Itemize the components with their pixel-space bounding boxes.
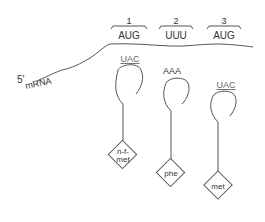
codon-position-3: 3 <box>221 16 226 26</box>
trna-2: AAA phe <box>156 66 189 187</box>
codon-1: 1 AUG <box>111 16 147 41</box>
amino-acid-1-line2: met <box>116 155 130 164</box>
codon-bracket-1 <box>111 26 147 29</box>
trna-loop-3 <box>211 91 236 122</box>
codon-position-2: 2 <box>173 16 178 26</box>
five-prime-label: 5′ <box>17 74 25 85</box>
trna-3: UAC met <box>204 80 236 199</box>
amino-acid-2: phe <box>164 169 178 178</box>
codon-bracket-3 <box>207 26 241 29</box>
mrna-strand <box>37 44 253 81</box>
codon-sequence-2: UUU <box>165 30 187 41</box>
codon-2: 2 UUU <box>159 16 193 41</box>
trna-loop-1 <box>116 65 143 104</box>
codon-position-1: 1 <box>126 16 131 26</box>
anticodon-2: AAA <box>163 66 181 76</box>
amino-acid-3: met <box>211 182 225 191</box>
codon-3: 3 AUG <box>207 16 241 41</box>
mrna-label: mRNA <box>24 76 52 91</box>
trna-1: UAC n-f- met <box>108 54 142 169</box>
codon-sequence-1: AUG <box>118 30 140 41</box>
anticodon-3: UAC <box>216 80 236 90</box>
anticodon-1: UAC <box>120 54 140 64</box>
trna-loop-2 <box>164 78 189 111</box>
translation-diagram: 5′ mRNA 1 AUG 2 UUU 3 AUG UAC n-f- met A… <box>0 0 265 222</box>
codon-sequence-3: AUG <box>213 30 235 41</box>
codon-bracket-2 <box>159 26 193 29</box>
